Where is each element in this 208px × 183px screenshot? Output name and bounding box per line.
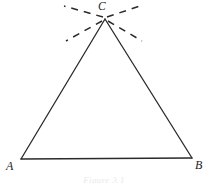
vertex-label-a: A [6,160,13,172]
figure-caption: Figure 3.1 [0,176,208,183]
side-AB [21,158,192,159]
triangle-outline [21,19,192,159]
vertex-label-b: B [195,159,202,171]
vertex-label-c: C [98,1,106,13]
triangle-diagram-svg [0,0,208,183]
ray-lower-left-icon [66,21,102,41]
side-CB [105,19,192,158]
figure-container: A B C Figure 3.1 [0,0,208,183]
ray-upper-right-icon [107,5,143,17]
side-AC [21,19,105,159]
